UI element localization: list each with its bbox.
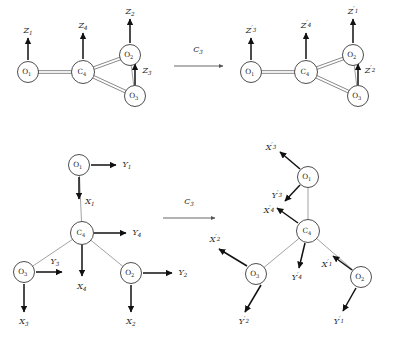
vector-label-z4: Z4 <box>77 21 88 31</box>
vector-y4-prime <box>299 243 305 268</box>
bond-a4-a2 <box>93 57 120 67</box>
bond-b4-b2 <box>317 60 344 70</box>
vector-x3-prime <box>280 152 300 169</box>
vector-label-y1: Y1 <box>123 160 132 170</box>
atom-o3: O3 <box>125 86 146 107</box>
vector-label-z1: Z1 <box>22 26 32 36</box>
atom-o3: O3 <box>14 262 35 283</box>
vector-label-y3: Y3 <box>51 257 60 267</box>
atom-o1: O1 <box>18 62 39 83</box>
atom-o3: O3 <box>246 264 267 285</box>
bond-c4-c2 <box>91 240 124 267</box>
vector-x1-prime <box>333 256 352 270</box>
vector-y3-prime <box>285 185 300 201</box>
bond-a4-a3 <box>94 75 127 90</box>
vector-label-y3-prime: Y′3 <box>272 189 283 200</box>
bond-c1-c4 <box>79 175 81 222</box>
vector-label-y2: Y2 <box>179 268 188 278</box>
vector-label-y4: Y4 <box>133 228 142 238</box>
atom-o1: O1 <box>298 167 319 188</box>
atom-o1: O1 <box>69 155 90 176</box>
bond-a4-a2 <box>94 60 121 70</box>
vector-y2-prime <box>245 285 261 312</box>
vector-label-y4-prime: Y′4 <box>292 271 303 282</box>
vector-y1-prime <box>343 288 356 311</box>
vector-label-x2: X2 <box>125 317 136 327</box>
c3-arrow-top-label: C3 <box>193 45 203 55</box>
vector-label-z2: Z2 <box>124 7 135 17</box>
bond-a4-a3 <box>92 78 125 93</box>
symmetry-operation-figure: Z1Z4Z2Z3Z′3Z′4Z′1Z′2Y1X1Y4X4Y3X3Y2X2X′3Y… <box>0 0 395 338</box>
vector-label-y2-prime: Y′2 <box>239 315 250 326</box>
bond-d4-d3 <box>264 238 300 268</box>
vector-label-x1-prime: X′1 <box>321 258 333 269</box>
bond-b2-b3 <box>354 65 357 86</box>
c3-arrow-bottom-label: C3 <box>184 197 194 207</box>
vector-label-y1-prime: Y′1 <box>334 315 344 326</box>
vector-label-x4: X4 <box>76 282 87 292</box>
atom-o3: O3 <box>348 86 369 107</box>
vector-label-z3: Z3 <box>141 66 152 76</box>
atom-o1: O1 <box>241 62 262 83</box>
bond-b4-b3 <box>315 78 348 93</box>
vector-label-x2-prime: X′2 <box>209 233 221 244</box>
atom-o2: O2 <box>121 263 142 284</box>
operation-arrows-layer: C3C3 <box>163 45 223 218</box>
vector-label-z1-prime: Z′1 <box>347 5 359 16</box>
bond-b4-b3 <box>317 75 350 90</box>
atom-o2: O2 <box>120 45 141 66</box>
vector-label-z2-prime: Z′2 <box>364 64 376 75</box>
atom-o2: O2 <box>351 267 372 288</box>
vector-label-x1: X1 <box>84 197 94 207</box>
vector-label-x3: X3 <box>18 317 29 327</box>
bond-a2-a3 <box>131 65 134 86</box>
bond-b4-b2 <box>316 57 343 67</box>
vector-label-x3-prime: X′3 <box>265 141 277 152</box>
atom-c4: C4 <box>71 222 94 245</box>
atoms-layer: O1C4O2O3O1C4O2O3O1C4O3O2O1C4O3O2 <box>14 45 372 288</box>
vector-x4-prime <box>277 208 298 223</box>
vector-label-x4-prime: X′4 <box>263 204 275 215</box>
atom-c4: C4 <box>297 220 320 243</box>
figure-canvas: Z1Z4Z2Z3Z′3Z′4Z′1Z′2Y1X1Y4X4Y3X3Y2X2X′3Y… <box>0 0 395 338</box>
vector-x2-prime <box>219 249 247 266</box>
vector-label-z4-prime: Z′4 <box>300 19 312 30</box>
atom-o2: O2 <box>343 45 364 66</box>
atom-c4: C4 <box>72 61 95 84</box>
vector-label-z3-prime: Z′3 <box>245 24 257 35</box>
atom-c4: C4 <box>295 61 318 84</box>
